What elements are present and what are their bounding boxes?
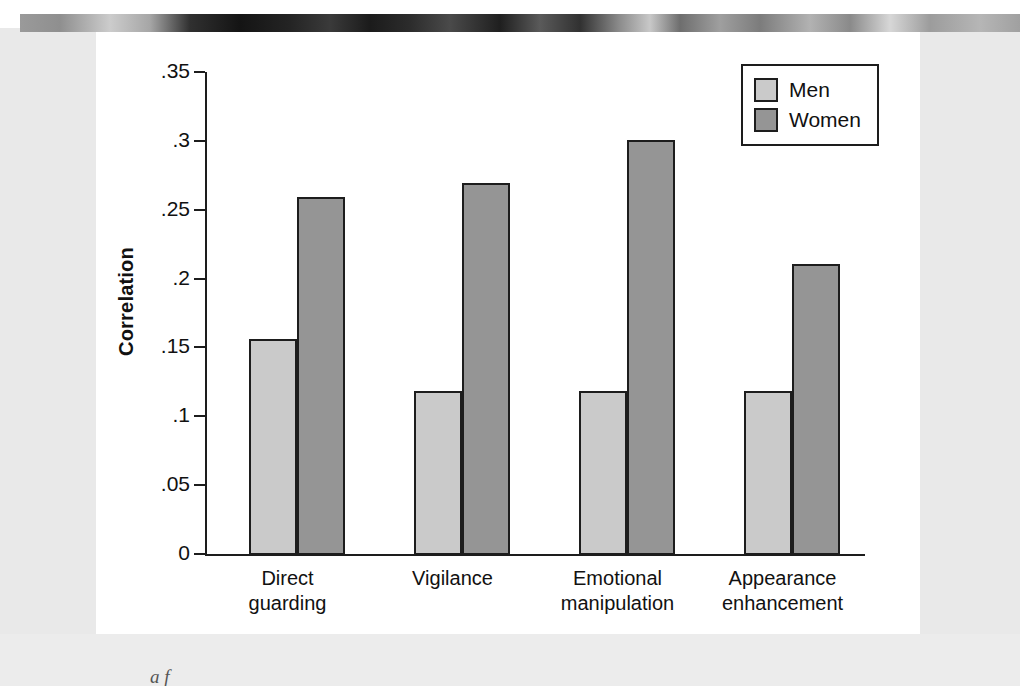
bar-women-1 bbox=[297, 197, 345, 555]
y-axis-tick-label: .35 bbox=[98, 59, 190, 83]
legend-item-men: Men bbox=[754, 75, 861, 105]
page-margin-right bbox=[920, 28, 1020, 686]
legend-swatch-men-icon bbox=[754, 78, 778, 102]
bar-women-4 bbox=[792, 264, 840, 555]
y-axis-tick bbox=[194, 553, 205, 555]
legend-label: Men bbox=[789, 78, 830, 102]
scanned-page: a f 0.05.1.15.2.25.3.35 Correlation Dire… bbox=[0, 0, 1020, 686]
y-axis-title: Correlation bbox=[115, 212, 138, 392]
y-axis-tick-label: .1 bbox=[98, 403, 190, 427]
y-axis-tick-label: .15 bbox=[98, 334, 190, 358]
y-axis-tick-label: .2 bbox=[98, 266, 190, 290]
chart-panel: 0.05.1.15.2.25.3.35 Correlation Directgu… bbox=[96, 32, 920, 634]
x-axis-label-line: Emotional bbox=[535, 566, 700, 591]
x-axis-label-2: Vigilance bbox=[370, 566, 535, 591]
bar-men-4 bbox=[744, 391, 792, 555]
x-axis-label-line: Appearance bbox=[700, 566, 865, 591]
y-axis-tick bbox=[194, 71, 205, 73]
y-axis-tick bbox=[194, 140, 205, 142]
y-axis-tick-label: .3 bbox=[98, 128, 190, 152]
chart-legend: MenWomen bbox=[741, 64, 879, 146]
x-axis-label-3: Emotionalmanipulation bbox=[535, 566, 700, 616]
x-axis-label-line: Direct bbox=[205, 566, 370, 591]
scanner-edge-strip bbox=[20, 14, 1020, 32]
y-axis-tick bbox=[194, 346, 205, 348]
y-axis-tick-label: 0 bbox=[98, 541, 190, 565]
legend-item-women: Women bbox=[754, 105, 861, 135]
y-axis-tick-label: .05 bbox=[98, 472, 190, 496]
x-axis-label-line: manipulation bbox=[535, 591, 700, 616]
y-axis-line bbox=[205, 72, 207, 556]
y-axis-tick bbox=[194, 484, 205, 486]
x-axis-label-line: guarding bbox=[205, 591, 370, 616]
x-axis-label-line: Vigilance bbox=[370, 566, 535, 591]
bar-women-3 bbox=[627, 140, 675, 555]
caption-fragment: a f bbox=[150, 666, 210, 686]
legend-swatch-women-icon bbox=[754, 108, 778, 132]
y-axis-tick bbox=[194, 278, 205, 280]
bar-men-3 bbox=[579, 391, 627, 555]
y-axis-tick bbox=[194, 415, 205, 417]
bar-women-2 bbox=[462, 183, 510, 555]
x-axis-label-1: Directguarding bbox=[205, 566, 370, 616]
bar-men-2 bbox=[414, 391, 462, 555]
y-axis-tick-label: .25 bbox=[98, 197, 190, 221]
x-axis-label-line: enhancement bbox=[700, 591, 865, 616]
y-axis-tick bbox=[194, 209, 205, 211]
page-margin-left bbox=[0, 28, 96, 686]
x-axis-label-4: Appearanceenhancement bbox=[700, 566, 865, 616]
legend-label: Women bbox=[789, 108, 861, 132]
bar-men-1 bbox=[249, 339, 297, 555]
